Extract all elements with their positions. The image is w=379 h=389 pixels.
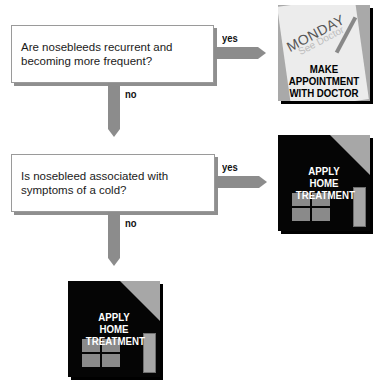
outcome-label: APPLY HOME TREATMENT	[74, 311, 155, 347]
question-text: Are nosebleeds recurrent and becoming mo…	[21, 40, 213, 68]
no-label-2: no	[125, 217, 137, 229]
outcome-label: APPLY HOME TREATMENT	[284, 165, 365, 201]
yes-label-1: yes	[222, 32, 238, 44]
yes-arrow-2	[215, 173, 267, 191]
outcome-make-appointment: MONDAY See Doctor MAKE APPOINTMENT WITH …	[278, 5, 370, 101]
outcome-home-treatment-1: APPLY HOME TREATMENT	[278, 135, 370, 231]
no-arrow-2	[108, 212, 120, 266]
question-box-2: Is nosebleed associated with symptoms of…	[11, 154, 215, 212]
yes-label-2: yes	[222, 161, 238, 173]
question-text: Is nosebleed associated with symptoms of…	[21, 169, 214, 197]
outcome-label: MAKE APPOINTMENT WITH DOCTOR	[284, 63, 365, 99]
no-arrow-1	[108, 83, 120, 137]
outcome-home-treatment-2: APPLY HOME TREATMENT	[68, 281, 160, 377]
no-label-1: no	[125, 88, 137, 100]
yes-arrow-1	[214, 44, 266, 62]
question-box-1: Are nosebleeds recurrent and becoming mo…	[11, 25, 214, 83]
